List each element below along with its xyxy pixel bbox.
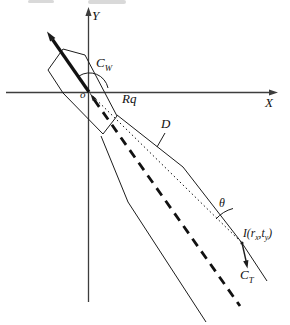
intruder-label-part: ) — [268, 227, 272, 239]
own-course-sub: W — [105, 63, 112, 73]
theta-angle-arc — [216, 209, 233, 220]
x-axis-label: X — [265, 96, 273, 109]
y-axis-arrowhead — [85, 7, 91, 16]
target-course-sub: T — [249, 275, 254, 285]
own-course-base: C — [96, 55, 105, 70]
own-course-label: CW — [96, 56, 112, 69]
heading-line — [53, 40, 90, 93]
target-course-label: CT — [240, 268, 254, 281]
beam-left-line — [101, 136, 206, 322]
intruder-label: I(rx,ty) — [243, 228, 272, 240]
distance-label: D — [161, 117, 170, 130]
origin-label: o — [80, 89, 86, 100]
y-axis-label: Y — [92, 9, 99, 22]
stern-label: Rq — [122, 92, 136, 105]
intruder-label-part: I(r — [243, 227, 255, 239]
target-course-base: C — [240, 267, 249, 282]
distance-label-tick — [157, 133, 165, 147]
theta-label: θ — [219, 197, 225, 209]
diagram-figure: Y X o CW Rq D θ I(rx,ty) CT — [0, 0, 290, 325]
